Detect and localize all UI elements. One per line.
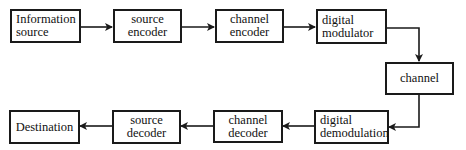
node-label-line: modulator bbox=[322, 27, 373, 40]
node-label-line: channel bbox=[229, 114, 268, 127]
node-digital-modulator: digital modulator bbox=[316, 9, 387, 44]
node-label-line: Destination bbox=[16, 121, 74, 134]
node-label-line: encoder bbox=[230, 26, 270, 39]
node-destination: Destination bbox=[9, 110, 80, 144]
node-label-line: demodulation bbox=[320, 127, 389, 140]
node-digital-demodulation: digital demodulation bbox=[314, 110, 389, 144]
node-source-encoder: source encoder bbox=[113, 9, 182, 43]
arrow-modulator-to-channel bbox=[386, 28, 419, 61]
node-label-line: channel bbox=[400, 72, 439, 85]
node-label-line: digital bbox=[322, 14, 354, 27]
node-source-decoder: source decoder bbox=[112, 110, 181, 144]
node-channel: channel bbox=[385, 62, 454, 95]
node-label-line: decoder bbox=[127, 127, 167, 140]
node-channel-decoder: channel decoder bbox=[213, 110, 283, 143]
node-information-source: Information source bbox=[10, 9, 81, 43]
arrow-channel-to-demodulation bbox=[389, 94, 419, 127]
node-label-line: decoder bbox=[228, 127, 268, 140]
node-label-line: source bbox=[16, 26, 49, 39]
node-channel-encoder: channel encoder bbox=[215, 9, 284, 43]
node-label-line: encoder bbox=[128, 26, 168, 39]
